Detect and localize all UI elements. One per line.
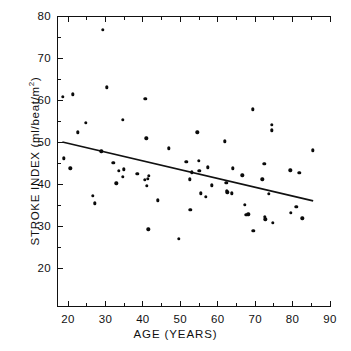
x-tick-top-20 — [68, 16, 69, 22]
x-tick-40 — [142, 301, 143, 307]
x-tick-top-40 — [142, 16, 143, 22]
y-axis-title: STROKE INDEX (ml/beat/m2) — [27, 31, 41, 291]
y-tick-label-80: 80 — [25, 10, 51, 22]
x-tick-label-50: 50 — [174, 313, 187, 325]
x-tick-45 — [161, 303, 162, 307]
x-tick-top-35 — [124, 16, 125, 20]
x-tick-top-55 — [199, 16, 200, 20]
y-tick-70 — [57, 58, 63, 59]
x-tick-label-20: 20 — [61, 313, 74, 325]
x-tick-label-30: 30 — [99, 313, 112, 325]
x-tick-label-70: 70 — [248, 313, 261, 325]
x-tick-20 — [68, 301, 69, 307]
y-tick-45 — [57, 163, 61, 164]
x-tick-top-25 — [86, 16, 87, 20]
y-tick-55 — [57, 121, 61, 122]
y-tick-80 — [57, 16, 63, 17]
y-tick-50 — [57, 142, 63, 143]
x-tick-label-40: 40 — [136, 313, 149, 325]
x-axis-title: AGE (YEARS) — [0, 328, 351, 340]
y-axis-title-paren: ) — [29, 76, 41, 81]
y-tick-40 — [57, 184, 63, 185]
x-tick-label-80: 80 — [286, 313, 299, 325]
x-tick-65 — [236, 303, 237, 307]
x-tick-90 — [330, 301, 331, 307]
x-tick-top-30 — [105, 16, 106, 22]
x-tick-top-85 — [311, 16, 312, 20]
y-axis-title-exponent: 2 — [27, 81, 36, 86]
x-tick-top-75 — [273, 16, 274, 20]
y-tick-75 — [57, 37, 61, 38]
y-tick-20 — [57, 268, 63, 269]
y-tick-35 — [57, 205, 61, 206]
y-axis-title-text: STROKE INDEX (ml/beat/m — [29, 86, 41, 245]
plot-frame — [57, 16, 331, 307]
x-tick-top-80 — [292, 16, 293, 22]
x-axis-title-text: AGE (YEARS) — [133, 328, 217, 340]
scatter-plot-figure: 203040506070809020304050607080 AGE (YEAR… — [0, 0, 351, 351]
x-tick-70 — [255, 301, 256, 307]
x-tick-top-70 — [255, 16, 256, 22]
x-tick-85 — [311, 303, 312, 307]
x-tick-top-60 — [217, 16, 218, 22]
y-tick-60 — [57, 100, 63, 101]
x-tick-top-65 — [236, 16, 237, 20]
x-tick-top-90 — [330, 16, 331, 22]
y-tick-25 — [57, 247, 61, 248]
y-tick-65 — [57, 79, 61, 80]
x-tick-35 — [124, 303, 125, 307]
x-tick-30 — [105, 301, 106, 307]
x-tick-55 — [199, 303, 200, 307]
x-tick-60 — [217, 301, 218, 307]
x-tick-label-90: 90 — [323, 313, 336, 325]
x-tick-top-50 — [180, 16, 181, 22]
x-tick-50 — [180, 301, 181, 307]
y-tick-30 — [57, 226, 63, 227]
x-tick-25 — [86, 303, 87, 307]
x-tick-label-60: 60 — [211, 313, 224, 325]
x-tick-80 — [292, 301, 293, 307]
x-tick-top-45 — [161, 16, 162, 20]
x-tick-75 — [273, 303, 274, 307]
